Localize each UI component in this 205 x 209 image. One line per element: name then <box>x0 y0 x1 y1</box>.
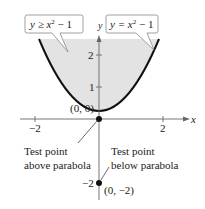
annotation-above-line2: above parabola <box>24 159 91 171</box>
equation-text: y = x <box>109 18 133 30</box>
point-below <box>96 180 102 186</box>
leader-below <box>101 167 109 180</box>
x-axis-label: x <box>190 113 196 125</box>
annotation-below-line1: Test point <box>111 145 155 157</box>
svg-text:y = x2 − 1: y = x2 − 1 <box>109 18 153 30</box>
y-axis-label: y <box>97 20 103 31</box>
leader-above <box>78 121 97 143</box>
tick-label-y-2: 2 <box>88 49 94 61</box>
annotation-above-line1: Test point <box>24 145 68 157</box>
svg-text:y ≥ x2 − 1: y ≥ x2 − 1 <box>29 18 72 30</box>
tick-label-x-2: 2 <box>160 122 166 134</box>
point-origin-label: (0, 0) <box>70 102 94 115</box>
point-below-label: (0, −2) <box>104 184 134 197</box>
tick-label-x-neg2: −2 <box>29 122 41 134</box>
x-axis-arrow-icon <box>183 117 190 122</box>
annotation-below-line2: below parabola <box>111 159 179 171</box>
inequality-text: y ≥ x <box>29 18 51 30</box>
tick-label-y-neg2: −2 <box>82 177 94 189</box>
graph: −2 2 2 1 −2 x y (0, 0) (0, −2) Test poin… <box>0 0 205 209</box>
tick-label-y-1: 1 <box>89 81 95 93</box>
y-axis-arrow-icon <box>97 35 102 42</box>
